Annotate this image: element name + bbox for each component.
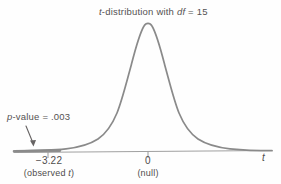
null-value-label: 0 [124, 155, 172, 166]
null-paren-text: (null) [137, 168, 158, 178]
observed-paren-open: (observed [24, 168, 69, 178]
title-df-symbol: df [177, 6, 185, 17]
title-middle-text: -distribution with [102, 6, 177, 17]
t-distribution-figure: t-distribution with df = 15 p-value = .0… [0, 0, 281, 184]
x-axis-label: t [262, 152, 265, 163]
observed-t-value-label: −3.22 [18, 155, 80, 166]
p-value-annotation: p-value = .003 [7, 111, 70, 122]
t-distribution-curve [16, 23, 272, 151]
chart-title: t-distribution with df = 15 [99, 6, 208, 17]
null-sublabel: (null) [122, 168, 174, 178]
observed-paren-close: ) [71, 168, 74, 178]
observed-t-sublabel: (observed t) [13, 168, 85, 178]
p-value-text: -value = .003 [12, 111, 70, 122]
title-df-value: = 15 [185, 6, 207, 17]
pvalue-arrow-head [30, 140, 36, 147]
